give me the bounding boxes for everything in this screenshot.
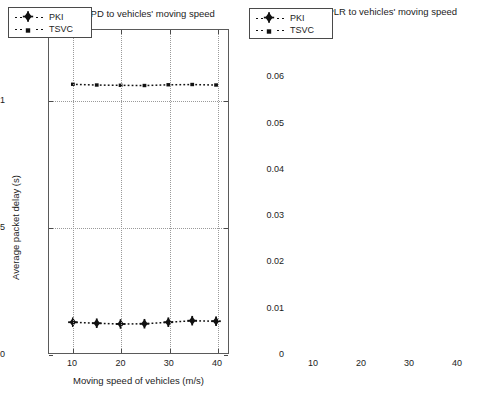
- gridline-vertical: [170, 30, 171, 353]
- y-tick-label: 0.05: [266, 118, 284, 128]
- legend-label-pki: PKI: [290, 13, 305, 23]
- legend-label-pki: PKI: [49, 12, 64, 22]
- y-axis-tick: [224, 228, 228, 229]
- chart-panel-packet-loss-ratio: Relationship of PLR to vehicles' moving …: [240, 0, 479, 393]
- y-tick-label: 0.03: [266, 210, 284, 220]
- series-markers-pki: [68, 316, 221, 329]
- legend-item-tsvc[interactable]: TSVC: [13, 23, 86, 35]
- x-axis-tick: [218, 349, 219, 353]
- y-axis-tick: [49, 228, 53, 229]
- x-tick-label: 20: [356, 358, 366, 368]
- y-axis-tick: [224, 355, 228, 356]
- gridline-vertical: [121, 30, 122, 353]
- x-tick-label: 10: [308, 358, 318, 368]
- figure-canvas: Relationship of PD to vehicles' moving s…: [0, 0, 479, 393]
- x-tick-label: 40: [452, 358, 462, 368]
- x-tick-label: 30: [404, 358, 414, 368]
- gridline-horizontal: [49, 228, 228, 229]
- series-markers-tsvc: [71, 83, 218, 88]
- y-axis-tick: [49, 355, 53, 356]
- x-axis-tick: [121, 30, 122, 34]
- x-axis-tick: [170, 30, 171, 34]
- y-tick-label: 0.01: [266, 303, 284, 313]
- chart-panel-packet-delay: Relationship of PD to vehicles' moving s…: [0, 0, 240, 393]
- y-axis-label-packet-delay: Average packet delay (s): [10, 175, 21, 280]
- y-tick-label: 0: [0, 349, 5, 359]
- small-square-icon: [266, 28, 273, 35]
- y-tick-label: 0.06: [266, 71, 284, 81]
- x-axis-tick: [218, 30, 219, 34]
- x-tick-label: 40: [212, 358, 222, 368]
- legend-packet-delay[interactable]: PKI TSVC: [8, 7, 92, 38]
- y-tick-label: 0.05: [0, 222, 5, 232]
- x-tick-label: 30: [164, 358, 174, 368]
- y-axis-tick: [49, 101, 53, 102]
- legend-label-tsvc: TSVC: [49, 24, 73, 34]
- x-axis-tick: [121, 349, 122, 353]
- x-tick-label: 10: [67, 358, 77, 368]
- y-tick-label: 0.1: [0, 95, 5, 105]
- legend-marker-tsvc: [13, 24, 47, 35]
- series-layer-packet-delay: [49, 30, 228, 353]
- x-axis-label-packet-delay: Moving speed of vehicles (m/s): [48, 375, 229, 386]
- series-line-pki: [76, 320, 213, 325]
- series-line-tsvc: [76, 84, 213, 87]
- y-tick-label: 0.02: [266, 256, 284, 266]
- legend-label-tsvc: TSVC: [290, 25, 314, 35]
- gridline-horizontal: [49, 101, 228, 102]
- y-tick-label: 0: [279, 349, 284, 359]
- gridline-vertical: [73, 30, 74, 353]
- y-axis-tick: [224, 101, 228, 102]
- legend-item-tsvc[interactable]: TSVC: [254, 24, 327, 36]
- x-tick-label: 20: [115, 358, 125, 368]
- legend-packet-loss-ratio[interactable]: PKI TSVC: [249, 8, 333, 39]
- x-axis-tick: [170, 349, 171, 353]
- plot-area-packet-delay: [48, 29, 229, 354]
- small-square-icon: [25, 27, 32, 34]
- y-tick-label: 0.04: [266, 164, 284, 174]
- x-axis-tick: [73, 349, 74, 353]
- gridline-vertical: [218, 30, 219, 353]
- legend-marker-tsvc: [254, 25, 288, 36]
